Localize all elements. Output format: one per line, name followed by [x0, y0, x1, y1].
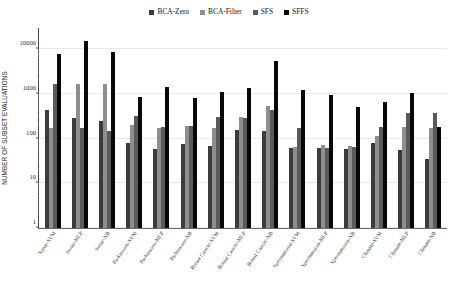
bar-sffs: [138, 97, 142, 228]
bar-group: [284, 28, 311, 228]
bar-groups: [39, 28, 447, 228]
bar-group: [393, 28, 420, 228]
bar-sffs: [247, 88, 251, 228]
bar-sffs: [193, 98, 197, 228]
legend-swatch-icon: [284, 10, 289, 15]
bar-group: [202, 28, 229, 228]
y-tick-label: 100: [26, 128, 39, 135]
x-label-cell: Climate-MLP: [392, 229, 419, 285]
bar-sffs: [410, 93, 414, 228]
x-label-cell: Sonar-SVM: [38, 229, 65, 285]
bar-group: [66, 28, 93, 228]
x-axis-label: Sonar-MLP: [64, 230, 84, 255]
legend-item-bca-filter[interactable]: BCA-Filter: [200, 8, 242, 16]
bar-sffs: [329, 95, 333, 228]
bar-group: [338, 28, 365, 228]
bar-sffs: [301, 90, 305, 228]
bar-group: [229, 28, 256, 228]
bar-group: [311, 28, 338, 228]
legend-item-bca-zero[interactable]: BCA-Zero: [149, 8, 189, 16]
bar-group: [175, 28, 202, 228]
bar-group: [39, 28, 66, 228]
x-label-cell: Climate-SVM: [364, 229, 391, 285]
x-label-cell: Spermatozoa-NB: [337, 229, 364, 285]
chart-root: BCA-ZeroBCA-FilterSFSSFFS NUMBER OF SUBS…: [0, 0, 458, 285]
bar-group: [121, 28, 148, 228]
chart-legend: BCA-ZeroBCA-FilterSFSSFFS: [0, 8, 458, 16]
bar-sffs: [111, 52, 115, 228]
legend-swatch-icon: [253, 10, 258, 15]
bar-sffs: [84, 41, 88, 228]
bar-sffs: [57, 54, 61, 228]
bar-group: [257, 28, 284, 228]
y-tick-label: 10000: [20, 39, 39, 46]
x-label-cell: Climate-NB: [419, 229, 446, 285]
legend-label: BCA-Zero: [157, 8, 189, 16]
bar-group: [365, 28, 392, 228]
x-axis-label: Climate-MLP: [387, 230, 410, 259]
bar-sffs: [356, 107, 360, 228]
y-tick-label: 10: [29, 173, 39, 180]
bar-group: [93, 28, 120, 228]
bar-group: [148, 28, 175, 228]
bar-sffs: [165, 87, 169, 228]
legend-item-sffs[interactable]: SFFS: [284, 8, 308, 16]
legend-label: SFS: [261, 8, 273, 16]
bar-sffs: [274, 61, 278, 228]
y-axis-title: NUMBER OF SUBSET EVALUATIONS: [0, 28, 10, 228]
legend-swatch-icon: [149, 10, 154, 15]
y-tick-label: 1000: [23, 84, 39, 91]
legend-item-sfs[interactable]: SFS: [253, 8, 273, 16]
legend-label: BCA-Filter: [208, 8, 242, 16]
legend-swatch-icon: [200, 10, 205, 15]
bar-sffs: [220, 92, 224, 228]
x-axis-label: Sonar-NB: [93, 230, 111, 252]
plot-area: 110100100010000: [38, 28, 447, 229]
bar-sffs: [383, 102, 387, 228]
bar-sffs: [437, 127, 441, 228]
x-axis-label: Climate-NB: [417, 230, 438, 256]
x-axis-labels: Sonar-SVMSonar-MLPSonar-NBParkinsons-SVM…: [38, 229, 446, 285]
x-label-cell: Sonar-MLP: [65, 229, 92, 285]
bar-group: [420, 28, 447, 228]
legend-label: SFFS: [292, 8, 308, 16]
x-axis-label: Sonar-SVM: [36, 230, 56, 255]
